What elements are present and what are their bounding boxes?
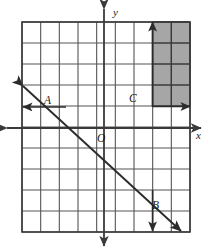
point-label-a: A bbox=[43, 94, 52, 106]
point-label-c: C bbox=[129, 92, 137, 104]
y-axis-label: y bbox=[112, 6, 118, 18]
origin-label: O bbox=[97, 132, 106, 144]
coordinate-plane-figure: xyOACB bbox=[0, 0, 210, 251]
point-label-b: B bbox=[152, 199, 159, 211]
x-axis-label: x bbox=[195, 129, 201, 141]
figure-container: xyOACB bbox=[0, 0, 210, 251]
